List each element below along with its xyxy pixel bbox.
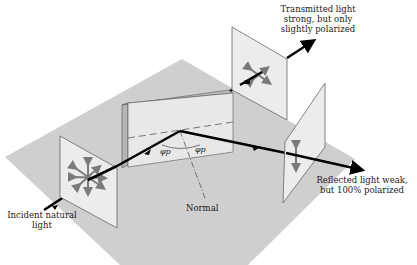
incident-label-line1: Incident natural [2, 210, 82, 220]
transmitted-ray-outer [287, 43, 310, 58]
angle-label-left: φp [160, 147, 171, 157]
transmitted-label: Transmitted light strong, but only sligh… [258, 4, 378, 34]
incident-label: Incident natural light [2, 210, 82, 230]
glass-block-side [122, 103, 128, 168]
transmitted-label-line1: Transmitted light [258, 4, 378, 14]
reflected-label-line1: Reflected light weak, [312, 175, 412, 185]
incident-label-line2: light [2, 220, 82, 230]
reflected-label-line2: but 100% polarized [312, 185, 412, 195]
angle-label-right: φp [195, 145, 206, 155]
transmitted-label-line2: strong, but only [258, 14, 378, 24]
normal-label: Normal [186, 203, 218, 213]
transmitted-label-line3: slightly polarized [258, 24, 378, 34]
reflected-label: Reflected light weak, but 100% polarized [312, 175, 412, 195]
